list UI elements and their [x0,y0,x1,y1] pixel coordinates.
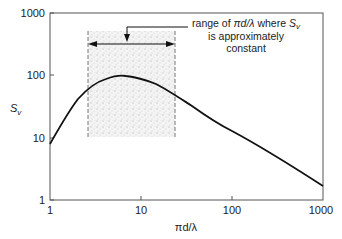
annotation-s: S [289,17,296,29]
x-tick-100: 100 [223,204,241,216]
y-tick-100: 100 [27,69,45,81]
y-tick-1: 1 [39,194,45,206]
y-axis [50,13,54,200]
annotation-text-mid: where [254,17,288,29]
y-tick-1000: 1000 [21,7,45,19]
annotation-s-sub: v [296,22,301,31]
y-tick-10: 10 [33,132,45,144]
y-axis-label-sub: v [17,108,22,117]
x-tick-1000: 1000 [309,204,333,216]
y-axis-label: Sv [10,102,22,117]
x-axis [141,196,232,200]
annotation-variable: πd/λ [234,17,255,29]
chart: 1000 100 10 1 1 10 100 1000 πd/λ Sv rang… [0,0,342,239]
annotation-line-2: is approximately [208,30,285,42]
constant-range-region [88,31,175,137]
x-tick-10: 10 [135,204,147,216]
annotation-text-pre: range of [192,17,233,29]
x-axis-label: πd/λ [175,221,198,233]
annotation-line-1: range of πd/λ where Sv [192,17,301,31]
annotation-line-3: constant [226,42,266,54]
x-tick-1: 1 [47,204,53,216]
